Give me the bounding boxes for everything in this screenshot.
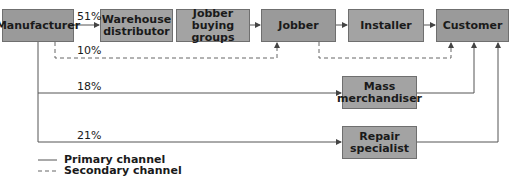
node-repair-specialist: Repair specialist [342,126,417,159]
node-jobber-buying-groups: Jobber buying groups [176,9,250,42]
pct-secondary-jobber: 10% [77,44,101,57]
node-installer: Installer [348,9,424,42]
pct-repair: 21% [77,129,101,142]
node-manufacturer: Manufacturer [2,9,74,42]
node-warehouse-distributor: Warehouse distributor [100,9,173,42]
legend-secondary: Secondary channel [64,164,182,177]
pct-mass: 18% [77,80,101,93]
node-jobber: Jobber [261,9,336,42]
pct-warehouse: 51% [77,10,101,23]
node-mass-merchandiser: Mass merchandiser [342,76,417,109]
node-customer: Customer [436,9,509,42]
